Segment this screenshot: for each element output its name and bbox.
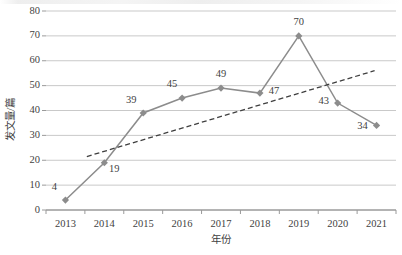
y-axis-tick-label: 70 bbox=[18, 30, 40, 41]
data-point-label: 34 bbox=[351, 121, 375, 132]
x-axis-tick-label: 2021 bbox=[357, 219, 397, 230]
data-point-label: 70 bbox=[287, 17, 311, 28]
data-point-label: 4 bbox=[42, 182, 66, 193]
x-axis-tick-label: 2019 bbox=[279, 219, 319, 230]
y-axis-tick-label: 80 bbox=[18, 6, 40, 17]
y-axis-tick-label: 10 bbox=[18, 180, 40, 191]
data-point-markers-group bbox=[62, 32, 380, 203]
x-axis-title: 年份 bbox=[161, 235, 281, 246]
data-point-label: 47 bbox=[262, 86, 286, 97]
data-point-label: 43 bbox=[312, 96, 336, 107]
data-point-label: 39 bbox=[119, 95, 143, 106]
data-point-label: 19 bbox=[102, 164, 126, 175]
y-axis-title: 发文量/篇 bbox=[6, 98, 17, 141]
y-axis-tick-label: 40 bbox=[18, 105, 40, 116]
x-axis-tick-label: 2016 bbox=[162, 219, 202, 230]
x-axis-tick-label: 2013 bbox=[45, 219, 85, 230]
y-axis-tick-label: 60 bbox=[18, 55, 40, 66]
y-axis-tick-label: 0 bbox=[18, 205, 40, 216]
data-point-marker[interactable] bbox=[179, 94, 186, 101]
x-axis-ticks-group bbox=[46, 210, 396, 214]
x-axis-tick-label: 2014 bbox=[84, 219, 124, 230]
data-point-label: 49 bbox=[209, 69, 233, 80]
data-point-label: 45 bbox=[160, 79, 184, 90]
x-axis-tick-label: 2018 bbox=[240, 219, 280, 230]
x-axis-tick-label: 2020 bbox=[318, 219, 358, 230]
y-axis-tick-label: 20 bbox=[18, 155, 40, 166]
gridlines-group bbox=[42, 11, 396, 210]
y-axis-tick-label: 30 bbox=[18, 130, 40, 141]
chart-container: 01020304050607080 2013201420152016201720… bbox=[0, 0, 402, 255]
y-axis-tick-label: 50 bbox=[18, 80, 40, 91]
chart-plot-area bbox=[0, 0, 402, 255]
x-axis-tick-label: 2015 bbox=[123, 219, 163, 230]
x-axis-tick-label: 2017 bbox=[201, 219, 241, 230]
trendline bbox=[87, 71, 375, 157]
